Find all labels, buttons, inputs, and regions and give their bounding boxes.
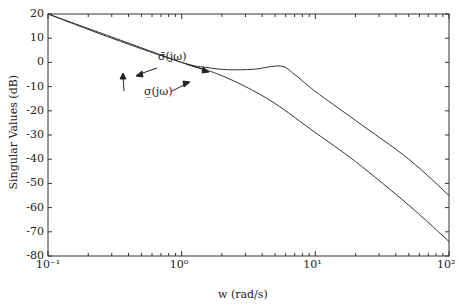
x-axis-label: w (rad/s) bbox=[218, 288, 268, 301]
plot-frame bbox=[48, 14, 449, 256]
y-axis-label: Singular Values (dB) bbox=[7, 80, 20, 190]
y-tick-label: 0 bbox=[0, 55, 44, 68]
axis-ticks bbox=[48, 14, 449, 256]
sigma-min-curve bbox=[48, 14, 449, 241]
x-tick-label: 10⁻¹ bbox=[36, 258, 60, 271]
y-tick-label: -70 bbox=[0, 225, 44, 238]
y-tick-label: -60 bbox=[0, 201, 44, 214]
x-tick-label: 10¹ bbox=[303, 258, 321, 271]
singular-value-plot bbox=[0, 0, 461, 306]
sigma-max-curve bbox=[48, 14, 449, 196]
y-tick-label: 10 bbox=[0, 31, 44, 44]
sigma-min-label: σ̲(jω) bbox=[144, 85, 172, 98]
x-tick-label: 10⁰ bbox=[170, 258, 188, 271]
sigma-max-label: σ̄(jω) bbox=[158, 50, 186, 63]
curves bbox=[48, 14, 449, 241]
x-tick-label: 10² bbox=[437, 258, 455, 271]
y-tick-label: 20 bbox=[0, 7, 44, 20]
